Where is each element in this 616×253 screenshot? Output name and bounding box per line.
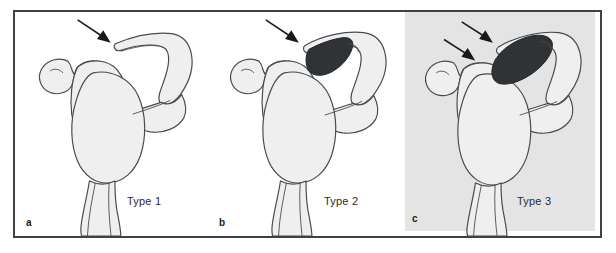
arrow-pointer-icon (78, 20, 109, 42)
shoulder-illustration-type-3 (405, 12, 600, 236)
humeral-shaft (467, 183, 507, 236)
panel-c: Type 3 c (405, 12, 600, 236)
panel-letter-a: a (26, 217, 32, 228)
type-label-3: Type 3 (517, 195, 551, 207)
figure-frame: Type 1 a (13, 10, 602, 238)
shoulder-illustration-type-1 (15, 12, 208, 236)
arrow-pointer-icon (444, 22, 491, 59)
humeral-head (72, 72, 145, 183)
type-label-1: Type 1 (127, 195, 161, 207)
shoulder-illustration-type-2 (208, 12, 405, 236)
humeral-head (458, 74, 531, 185)
panel-b: Type 2 b (208, 12, 405, 236)
panel-a: Type 1 a (15, 12, 208, 236)
arrow-pointer-icon (266, 20, 297, 42)
humeral-shaft (272, 181, 312, 236)
humeral-shaft (81, 181, 121, 236)
type-label-2: Type 2 (324, 195, 358, 207)
panel-letter-c: c (412, 213, 418, 224)
acromial-spur-dark-large (492, 35, 553, 84)
panel-letter-b: b (219, 217, 225, 228)
humeral-head (263, 72, 336, 183)
